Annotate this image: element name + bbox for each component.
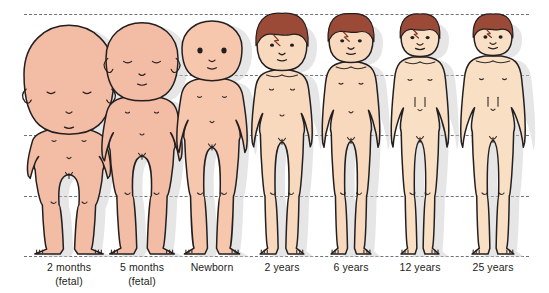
- caption-line-1: 2 months: [47, 261, 91, 273]
- caption-line-1: Newborn: [191, 261, 234, 273]
- figure-adult-25-years: 25 years: [455, 0, 531, 293]
- figure-adolescent-12-years: 12 years: [385, 0, 455, 293]
- figure-body-newborn: [170, 0, 254, 258]
- caption-line-1: 25 years: [472, 261, 513, 273]
- figure-body-child-2-years: [244, 0, 320, 258]
- head-outline: [106, 23, 178, 101]
- figure-body-adolescent-12-years: [385, 0, 455, 258]
- caption-line-1: 6 years: [333, 261, 368, 273]
- head-outline: [182, 21, 242, 81]
- figure-child-2-years: 2 years: [244, 0, 320, 293]
- caption-line-1: 2 years: [264, 261, 299, 273]
- figure-caption-child-2-years: 2 years: [244, 261, 320, 275]
- figure-caption-adult-25-years: 25 years: [455, 261, 531, 275]
- figure-child-6-years: 6 years: [315, 0, 387, 293]
- body-proportions-diagram: 2 months(fetal)5 months(fetal)Newborn2 y…: [0, 0, 549, 293]
- figure-body-adult-25-years: [455, 0, 531, 258]
- figure-caption-adolescent-12-years: 12 years: [385, 261, 455, 275]
- figure-newborn: Newborn: [170, 0, 254, 293]
- caption-line-1: 5 months: [120, 261, 164, 273]
- figure-caption-child-6-years: 6 years: [315, 261, 387, 275]
- figure-caption-newborn: Newborn: [170, 261, 254, 275]
- figure-body-child-6-years: [315, 0, 387, 258]
- caption-line-1: 12 years: [399, 261, 440, 273]
